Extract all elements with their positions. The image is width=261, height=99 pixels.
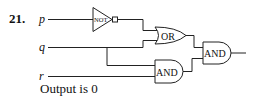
and-lower-label: AND <box>156 67 178 78</box>
wire-and-to-and <box>183 59 203 72</box>
not-bubble <box>113 17 118 22</box>
input-q-label: q <box>39 40 45 54</box>
and-output-label: AND <box>204 48 226 59</box>
not-gate-label: NOT <box>94 16 107 23</box>
wire-not-to-or <box>118 20 157 31</box>
or-gate-label: OR <box>161 31 175 42</box>
problem-number: 21. <box>9 11 25 26</box>
input-p-label: p <box>38 12 45 26</box>
wire-or-to-and <box>186 36 203 48</box>
result-text: Output is 0 <box>40 82 98 96</box>
wire-q-to-and <box>107 48 155 66</box>
